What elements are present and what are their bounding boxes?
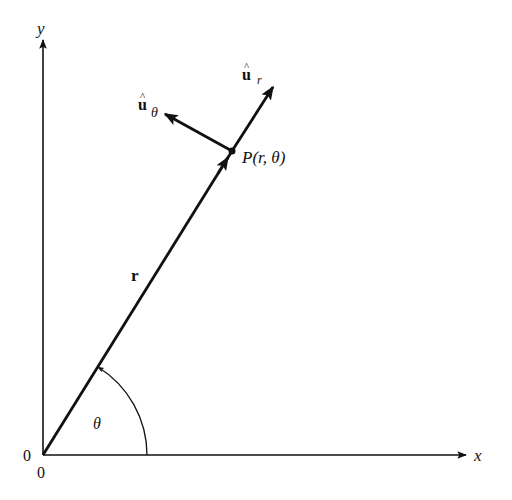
u-theta-base: u: [138, 96, 147, 113]
x-axis-label: x: [473, 446, 482, 465]
label-u-r: ^ u r: [242, 60, 262, 87]
radius-label-r: r: [131, 266, 139, 285]
label-u-theta: ^ u θ: [138, 90, 158, 120]
y-axis-label: y: [35, 19, 45, 38]
origin-label-below: 0: [37, 464, 45, 481]
angle-arc-theta: [98, 367, 147, 455]
u-theta-subscript: θ: [151, 105, 158, 120]
radius-vector-arrowhead: [218, 158, 228, 174]
origin-label-left: 0: [23, 447, 31, 464]
unit-vector-u-r: [232, 87, 273, 151]
radius-vector-r: [43, 151, 232, 455]
unit-vector-u-theta: [165, 114, 232, 151]
angle-label-theta: θ: [93, 415, 101, 432]
polar-unit-vectors-diagram: y x 0 0 r θ P(r, θ) ^ u r ^ u θ: [0, 0, 512, 500]
u-r-subscript: r: [257, 73, 262, 87]
u-r-base: u: [242, 66, 251, 83]
point-label-P: P(r, θ): [241, 148, 286, 167]
